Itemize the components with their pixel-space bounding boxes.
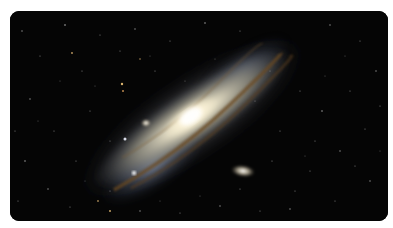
galaxy-illustration: [10, 11, 388, 221]
bright-star: [124, 138, 127, 141]
galaxy-image: [10, 11, 388, 221]
bright-star: [132, 171, 136, 175]
satellite-galaxy-m32: [141, 119, 151, 127]
